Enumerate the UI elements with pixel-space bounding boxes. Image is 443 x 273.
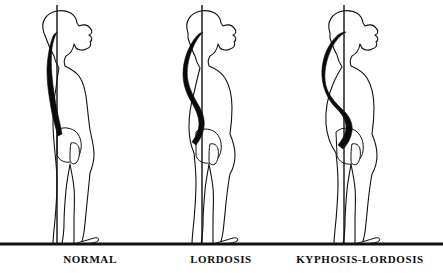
posture-label-lordosis: LORDOSIS [190, 253, 252, 265]
figure-normal [43, 5, 99, 244]
hand-normal [70, 143, 79, 164]
posture-diagram-canvas [0, 0, 443, 273]
figure-lordosis [183, 5, 238, 244]
figure-kyphosis-lordosis [322, 5, 380, 244]
hand-lordosis [209, 144, 218, 165]
posture-label-normal: NORMAL [63, 253, 117, 265]
posture-comparison-diagram: NORMALLORDOSISKYPHOSIS-LORDOSIS [0, 0, 443, 273]
posture-label-kyphosis-lordosis: KYPHOSIS-LORDOSIS [296, 253, 424, 265]
hand-kyphosis-lordosis [351, 144, 360, 165]
